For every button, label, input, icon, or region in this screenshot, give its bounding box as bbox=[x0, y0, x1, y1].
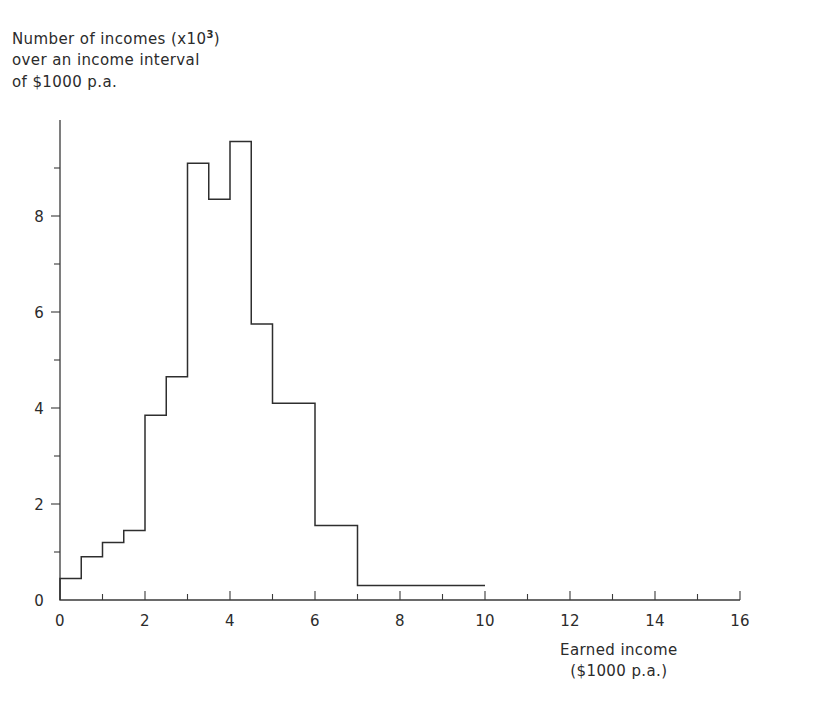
axes-group bbox=[60, 120, 740, 600]
histogram-figure: Number of incomes (x103) over an income … bbox=[0, 0, 819, 707]
y-tick-label: 4 bbox=[34, 400, 44, 418]
x-tick-label: 0 bbox=[55, 612, 65, 630]
y-tick-label: 8 bbox=[34, 208, 44, 226]
x-tick-label: 12 bbox=[560, 612, 580, 630]
y-tick-label: 0 bbox=[34, 592, 44, 610]
ticks-group bbox=[51, 168, 740, 600]
x-tick-label: 6 bbox=[310, 612, 320, 630]
x-tick-label: 8 bbox=[395, 612, 405, 630]
x-tick-label: 10 bbox=[475, 612, 495, 630]
axis-lines bbox=[60, 120, 740, 600]
x-tick-label: 14 bbox=[645, 612, 665, 630]
y-tick-label: 6 bbox=[34, 304, 44, 322]
tick-labels-group: 024681012141602468 bbox=[34, 208, 750, 630]
y-tick-label: 2 bbox=[34, 496, 44, 514]
x-tick-label: 4 bbox=[225, 612, 235, 630]
x-tick-label: 2 bbox=[140, 612, 150, 630]
x-tick-label: 16 bbox=[730, 612, 750, 630]
plot-area: 024681012141602468 bbox=[0, 0, 819, 707]
histogram-step-line bbox=[60, 142, 485, 600]
